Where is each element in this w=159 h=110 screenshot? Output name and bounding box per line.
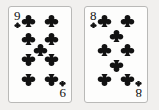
club-pip-icon	[120, 43, 135, 58]
club-pip-icon	[97, 14, 112, 29]
club-pip-icon	[109, 58, 124, 73]
club-pip-icon	[44, 52, 59, 67]
card-rank-bottom-right: 8	[133, 87, 145, 100]
club-pip-icon	[44, 14, 59, 29]
club-icon	[14, 22, 21, 29]
club-pip-icon	[109, 29, 124, 44]
club-pip-icon	[97, 43, 112, 58]
card-pip-field-nine	[22, 16, 58, 93]
playing-card-nine-of-clubs[interactable]: 9	[8, 6, 72, 103]
club-pip-icon	[21, 72, 36, 87]
card-index-bottom-right: 9	[57, 80, 69, 100]
club-pip-icon	[97, 72, 112, 87]
club-pip-icon	[120, 14, 135, 29]
card-pip-field-eight	[98, 16, 134, 93]
card-table-surface: 9	[0, 0, 159, 110]
card-index-bottom-right: 8	[133, 80, 145, 100]
playing-card-eight-of-clubs[interactable]: 8	[84, 6, 148, 103]
club-icon	[90, 22, 97, 29]
club-pip-icon	[21, 14, 36, 29]
club-pip-icon	[21, 52, 36, 67]
card-rank-bottom-right: 9	[57, 87, 69, 100]
